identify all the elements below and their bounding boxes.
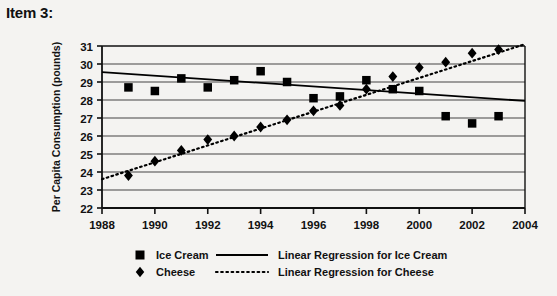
icecream-data-point [151, 87, 160, 96]
chart-container: 22232425262728293031 1988199019921994199… [0, 0, 557, 296]
y-axis-tick-label: 30 [80, 59, 93, 71]
y-axis-tick-label: 25 [80, 149, 93, 161]
y-axis-tick-label: 24 [80, 167, 93, 179]
icecream-data-point [283, 78, 292, 87]
y-axis-tick-label: 28 [80, 95, 93, 107]
plot-frame [102, 46, 525, 208]
icecream-data-point [389, 85, 398, 94]
icecream-data-point [494, 112, 503, 121]
legend-series-label: Ice Cream [156, 249, 209, 261]
icecream-data-point [468, 119, 477, 128]
y-axis-tick-group: 22232425262728293031 [80, 41, 102, 215]
icecream-data-point [256, 67, 265, 76]
y-axis-title: Per Capita Consumption (pounds) [50, 42, 62, 212]
y-axis-tick-label: 31 [80, 41, 93, 53]
x-axis-tick-label: 1996 [301, 219, 327, 231]
x-axis-tick-label: 2004 [512, 219, 538, 231]
x-axis-tick-label: 1990 [142, 219, 168, 231]
y-axis-tick-label: 23 [80, 185, 93, 197]
icecream-data-point [309, 94, 318, 103]
legend-trendline-label: Linear Regression for Cheese [278, 266, 434, 278]
legend-series-label: Cheese [156, 266, 195, 278]
chart-legend: Ice CreamLinear Regression for Ice Cream… [136, 249, 448, 278]
icecream-data-point [362, 76, 371, 85]
icecream-data-point [230, 76, 239, 85]
cheese-data-point [230, 131, 239, 142]
x-axis-tick-label: 2002 [459, 219, 485, 231]
x-axis-tick-label: 1992 [195, 219, 221, 231]
x-axis-tick-label: 1994 [248, 219, 274, 231]
icecream-data-point [336, 92, 345, 101]
icecream-data-point [415, 87, 424, 96]
y-axis-tick-label: 26 [80, 131, 93, 143]
y-axis-tick-label: 29 [80, 77, 93, 89]
x-axis-tick-label: 1988 [89, 219, 115, 231]
legend-cheese-marker-icon [136, 267, 145, 277]
cheese-data-point [441, 57, 450, 68]
cheese-data-point [388, 71, 397, 82]
y-axis-title-group: Per Capita Consumption (pounds) [50, 42, 62, 212]
icecream-data-point [124, 83, 133, 92]
consumption-scatter-chart: 22232425262728293031 1988199019921994199… [0, 0, 557, 296]
x-axis-tick-group: 198819901992199419961998200020022004 [89, 208, 538, 231]
icecream-data-point [204, 83, 213, 92]
x-axis-tick-label: 2000 [406, 219, 432, 231]
cheese-data-point [283, 114, 292, 125]
cheese-data-point [256, 122, 265, 133]
icecream-data-point [441, 112, 450, 121]
legend-icecream-marker-icon [136, 251, 145, 260]
legend-trendline-label: Linear Regression for Ice Cream [278, 249, 448, 261]
x-axis-tick-label: 1998 [354, 219, 380, 231]
icecream-data-point [177, 74, 186, 83]
data-point-group [124, 44, 503, 181]
cheese-data-point [150, 156, 159, 167]
cheese-data-point [468, 48, 477, 59]
y-axis-tick-label: 27 [80, 113, 93, 125]
cheese-data-point [336, 100, 345, 111]
cheese-data-point [309, 105, 318, 116]
y-axis-tick-label: 22 [80, 203, 93, 215]
